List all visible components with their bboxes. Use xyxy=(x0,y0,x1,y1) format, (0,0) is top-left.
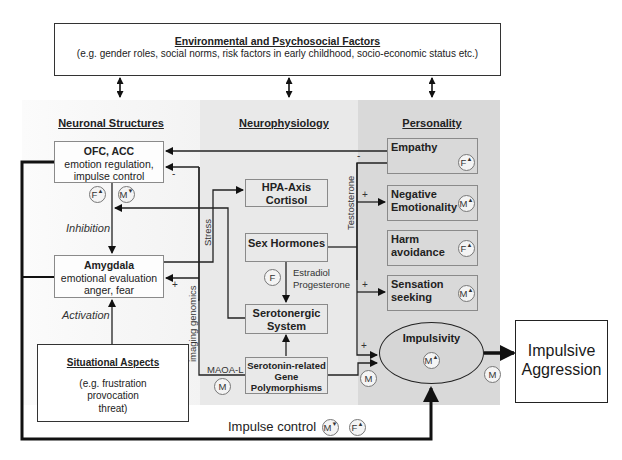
empathy-female-marker: F▲ xyxy=(458,154,475,171)
neuronal-header: Neuronal Structures xyxy=(58,117,164,129)
ofc-male-marker: M▼ xyxy=(118,186,135,203)
sex-hormones-box: Sex Hormones xyxy=(245,233,328,262)
plus-sign-amygdala: + xyxy=(172,279,178,290)
hpa-axis-box: HPA-Axis Cortisol xyxy=(245,179,328,207)
situational-line2: provocation xyxy=(38,390,188,403)
situational-line3: threat) xyxy=(38,403,188,416)
impulsivity-male-marker: M▲ xyxy=(423,352,440,369)
genes-line2: Gene xyxy=(246,371,327,382)
impulsivity-node: Impulsivity M▲ xyxy=(379,322,484,384)
maoa-label: MAOA-L xyxy=(207,364,243,375)
genes-line1: Serotonin-related xyxy=(246,360,327,371)
outcome-line1: Impulsive xyxy=(516,341,607,360)
sex-hormones-label: Sex Hormones xyxy=(246,237,327,250)
maoa-male-marker: M xyxy=(214,378,231,395)
ofc-line1: emotion regulation, xyxy=(55,158,163,171)
harm-avoidance-box: Harm avoidance F▲ xyxy=(387,230,478,266)
genes-line3: Polymorphisms xyxy=(246,382,327,393)
activation-label: Activation xyxy=(62,309,110,321)
amygdala-title: Amygdala xyxy=(55,259,163,272)
negative-emotionality-male-marker: M▲ xyxy=(458,195,475,212)
hpa-line1: HPA-Axis xyxy=(246,181,327,194)
ofc-title: OFC, ACC xyxy=(55,145,163,158)
stress-label: Stress xyxy=(202,219,213,246)
inhibition-label: Inhibition xyxy=(66,222,110,234)
impulse-control-female-marker: F▲ xyxy=(349,419,366,436)
situational-title: Situational Aspects xyxy=(38,357,188,370)
amygdala-box: Amygdala emotional evaluation anger, fea… xyxy=(54,255,164,298)
serotonergic-line2: System xyxy=(246,320,327,333)
empathy-label: Empathy xyxy=(391,141,474,154)
amygdala-line2: anger, fear xyxy=(55,284,163,297)
harm-avoidance-female-marker: F▲ xyxy=(458,240,475,257)
outcome-line2: Aggression xyxy=(516,360,607,379)
sensation-seeking-male-marker: M▲ xyxy=(458,285,475,302)
impulsivity-label: Impulsivity xyxy=(380,332,483,344)
negative-emotionality-box: Negative Emotionality M▲ xyxy=(387,185,478,221)
serotonin-genes-box: Serotonin-related Gene Polymorphisms xyxy=(245,357,328,394)
plus-sign-negative-emotionality: + xyxy=(362,189,368,200)
serotonergic-system-box: Serotonergic System xyxy=(245,304,328,334)
personality-header: Personality xyxy=(402,117,461,129)
sex-hormones-female-marker: F xyxy=(264,269,281,286)
empathy-box: Empathy F▲ xyxy=(387,138,478,174)
environment-subtitle: (e.g. gender roles, social norms, risk f… xyxy=(55,48,500,61)
ofc-acc-box: OFC, ACC emotion regulation, impulse con… xyxy=(54,141,164,183)
testosterone-label: Testosterone xyxy=(345,176,356,230)
plus-sign-impulsivity: + xyxy=(361,340,367,351)
imaging-genomics-label: imaging genomics xyxy=(187,285,198,362)
ofc-female-marker: F▲ xyxy=(89,186,106,203)
estradiol-label: Estradiol xyxy=(293,267,330,278)
environment-title: Environmental and Psychosocial Factors xyxy=(55,35,500,48)
minus-sign-ofc: - xyxy=(172,168,175,179)
serotonergic-line1: Serotonergic xyxy=(246,307,327,320)
neurophysiology-header: Neurophysiology xyxy=(239,117,329,129)
situational-aspects-box: Situational Aspects (e.g. frustration pr… xyxy=(37,344,189,422)
plus-sign-sensation-seeking: + xyxy=(362,279,368,290)
impulse-control-male-marker: M▼ xyxy=(322,419,339,436)
situational-line1: (e.g. frustration xyxy=(38,378,188,391)
gene-male-marker: M xyxy=(360,370,377,387)
ofc-line2: impulse control xyxy=(55,170,163,183)
minus-sign-testosterone: - xyxy=(357,150,360,161)
hpa-line2: Cortisol xyxy=(246,194,327,207)
amygdala-line1: emotional evaluation xyxy=(55,272,163,285)
impulsive-aggression-box: Impulsive Aggression xyxy=(515,320,608,403)
sensation-seeking-box: Sensation seeking M▲ xyxy=(387,275,478,311)
outcome-male-marker: M xyxy=(484,366,501,383)
impulse-control-label: Impulse control xyxy=(228,419,316,434)
progesterone-label: Progesterone xyxy=(293,279,350,290)
environment-box: Environmental and Psychosocial Factors (… xyxy=(54,23,501,76)
